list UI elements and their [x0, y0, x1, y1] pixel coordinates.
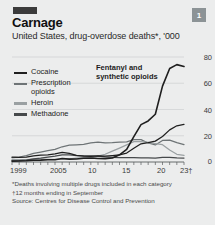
x-tick-2023: 23† [180, 166, 193, 175]
x-tick-2005: 2005 [50, 166, 67, 175]
y-tick-20: 20 [198, 132, 212, 141]
footnote-asterisk: *Deaths involving multiple drugs include… [12, 180, 210, 189]
fentanyl-annotation: Fentanyl and synthetic opioids [96, 63, 162, 81]
chart-legend: Cocaine Prescription opioids Heroin Meth… [14, 68, 92, 121]
legend-swatch-heroin [14, 102, 27, 105]
x-tick-2015: 15 [122, 166, 130, 175]
legend-label-prescription-opioids: Prescription opioids [31, 79, 92, 96]
legend-label-heroin: Heroin [31, 99, 53, 108]
source-line: Source: Centres for Disease Control and … [12, 197, 210, 206]
legend-label-cocaine: Cocaine [31, 68, 59, 77]
legend-swatch-cocaine [14, 72, 27, 75]
legend-item-cocaine: Cocaine [14, 68, 92, 77]
footnote-dagger: †12 months ending in September [12, 189, 210, 198]
x-tick-1999: 1999 [10, 166, 27, 175]
y-tick-40: 40 [198, 106, 212, 115]
annotation-line-2: synthetic opioids [96, 72, 162, 81]
legend-item-heroin: Heroin [14, 99, 92, 108]
legend-swatch-prescription-opioids [14, 83, 27, 86]
legend-item-methadone: Methadone [14, 110, 92, 119]
x-tick-2020: 20 [157, 166, 165, 175]
y-tick-80: 80 [198, 53, 212, 62]
y-tick-0: 0 [198, 157, 212, 166]
legend-swatch-methadone [14, 113, 27, 116]
annotation-line-1: Fentanyl and [96, 63, 162, 72]
legend-label-methadone: Methadone [31, 110, 69, 119]
y-tick-60: 60 [198, 79, 212, 88]
chart-card: Carnage United States, drug-overdose dea… [0, 0, 215, 225]
x-tick-2010: 10 [88, 166, 96, 175]
legend-item-prescription-opioids: Prescription opioids [14, 79, 92, 96]
chart-footnotes: *Deaths involving multiple drugs include… [12, 180, 210, 206]
